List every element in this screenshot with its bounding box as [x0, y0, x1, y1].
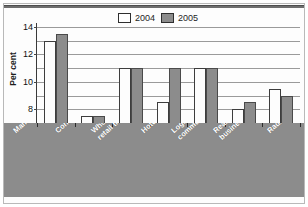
y-tick-label-14: 14 [23, 23, 33, 32]
bar-2004 [44, 41, 56, 123]
bar-2005 [131, 68, 143, 123]
bar-group [150, 27, 188, 123]
bar-2004 [81, 116, 93, 123]
bar-2004 [194, 68, 206, 123]
y-tick-label-10: 10 [23, 77, 33, 86]
white-swatch-icon [118, 13, 131, 23]
top-divider-rule [4, 5, 304, 8]
bar-2005 [244, 102, 256, 123]
y-tick-label-8: 8 [28, 105, 33, 114]
category-tick [300, 123, 301, 127]
legend-label-2004: 2004 [135, 13, 155, 23]
bar-group [187, 27, 225, 123]
bar-2004 [269, 89, 281, 123]
y-axis-title: Per cent [7, 38, 19, 100]
bar-groups [37, 27, 300, 123]
bar-2005 [281, 96, 293, 123]
bar-group [37, 27, 75, 123]
category-label-band: ManufacturingConstructionWholesale and r… [4, 123, 304, 197]
bar-group [225, 27, 263, 123]
category-label: Manufacturing [12, 123, 56, 135]
chart-screenshot: 2004 2005 Per cent 02468101214 Manufactu… [0, 0, 308, 207]
category-tick [262, 123, 263, 127]
bar-2004 [157, 102, 169, 123]
bar-group [262, 27, 300, 123]
legend-label-2005: 2005 [178, 13, 198, 23]
bar-2004 [119, 68, 131, 123]
bar-2004 [232, 109, 244, 123]
category-label: Wholesale and retail trade [90, 123, 140, 142]
category-label: Radio, film, TV [266, 123, 304, 135]
bar-group [75, 27, 113, 123]
y-tick-label-12: 12 [23, 50, 33, 59]
gray-swatch-icon [161, 13, 174, 23]
bar-2005 [93, 116, 105, 123]
legend-item-2005: 2005 [161, 13, 198, 23]
category-label: Hotels [140, 123, 163, 135]
bar-2005 [206, 68, 218, 123]
category-label: Real estate, business activities [212, 123, 273, 142]
legend-item-2004: 2004 [118, 13, 155, 23]
category-tick [37, 123, 38, 127]
chart-legend: 2004 2005 [118, 12, 198, 24]
bar-2005 [169, 68, 181, 123]
plot-area: 02468101214 [37, 27, 300, 123]
y-axis-title-text: Per cent [8, 52, 18, 86]
bar-group [112, 27, 150, 123]
category-tick [75, 123, 76, 127]
bar-2005 [56, 34, 68, 123]
